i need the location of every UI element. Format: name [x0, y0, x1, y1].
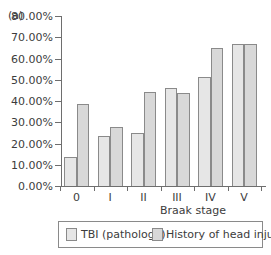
- y-tick-label: 70.00%: [3, 31, 53, 44]
- y-tick-mark: [55, 80, 61, 81]
- bar-history-head-injury: [244, 44, 257, 186]
- bar-history-head-injury: [177, 93, 190, 187]
- bar-tbi-pathology: [64, 157, 77, 186]
- y-tick-label: 30.00%: [3, 116, 53, 129]
- y-tick-mark: [55, 101, 61, 102]
- y-axis-line: [61, 16, 62, 187]
- y-tick-label: 20.00%: [3, 138, 53, 151]
- y-tick-label: 10.00%: [3, 159, 53, 172]
- bar-tbi-pathology: [131, 133, 144, 186]
- x-tick-label: V: [229, 191, 259, 204]
- bar-history-head-injury: [77, 104, 90, 186]
- y-tick-mark: [55, 144, 61, 145]
- x-tick-label: 0: [62, 191, 92, 204]
- legend-swatch-tbi: [66, 228, 77, 241]
- bar-tbi-pathology: [165, 88, 178, 186]
- bar-history-head-injury: [211, 48, 224, 186]
- y-tick-label: 40.00%: [3, 95, 53, 108]
- y-tick-mark: [55, 165, 61, 166]
- y-tick-label: 60.00%: [3, 53, 53, 66]
- y-tick-mark: [55, 59, 61, 60]
- bar-tbi-pathology: [98, 136, 111, 186]
- y-tick-label: 50.00%: [3, 74, 53, 87]
- legend-label-history: History of head injury: [166, 228, 271, 241]
- bar-history-head-injury: [110, 127, 123, 186]
- legend: TBI (pathology) History of head injury: [58, 221, 263, 248]
- y-tick-mark: [55, 37, 61, 38]
- x-tick-label: IV: [196, 191, 226, 204]
- y-tick-mark: [55, 16, 61, 17]
- x-tick-mark: [261, 186, 262, 191]
- y-tick-mark: [55, 122, 61, 123]
- bar-tbi-pathology: [232, 44, 245, 186]
- bar-history-head-injury: [144, 92, 157, 186]
- y-tick-label: 0.00%: [3, 180, 53, 193]
- x-tick-label: III: [162, 191, 192, 204]
- x-axis-label: Braak stage: [133, 204, 253, 217]
- bar-tbi-pathology: [198, 77, 211, 186]
- x-tick-label: II: [129, 191, 159, 204]
- x-tick-label: I: [95, 191, 125, 204]
- y-tick-label: 80.00%: [3, 10, 53, 23]
- legend-swatch-history: [152, 228, 163, 241]
